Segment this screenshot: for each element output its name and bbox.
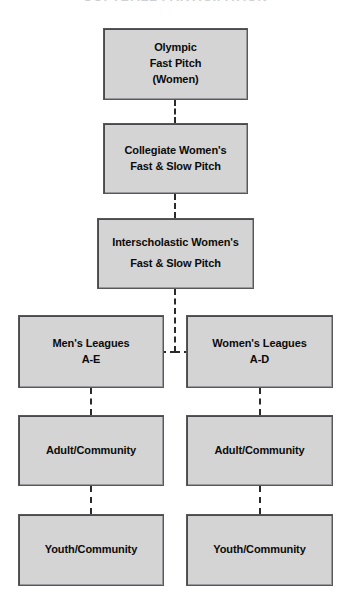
connector-collegiate-interscholastic xyxy=(174,194,176,218)
node-olympic-line-2: Fast Pitch xyxy=(150,56,202,72)
node-mens-adult-community[interactable]: Adult/Community xyxy=(18,415,164,486)
node-womens-youth-community-label: Youth/Community xyxy=(213,542,305,558)
node-collegiate-line-2: Fast & Slow Pitch xyxy=(130,159,221,175)
node-womens-adult-community-label: Adult/Community xyxy=(214,443,304,459)
flowchart-canvas: SOFTBALL PARTICIPATION Olympic Fast Pitc… xyxy=(0,0,351,613)
connector-interscholastic-split xyxy=(174,289,176,352)
connector-mens-leagues-adult xyxy=(90,388,92,415)
node-interscholastic-line-2: Fast & Slow Pitch xyxy=(130,256,221,272)
node-mens-youth-community[interactable]: Youth/Community xyxy=(18,514,164,586)
node-mens-youth-community-label: Youth/Community xyxy=(45,542,137,558)
clipped-heading: SOFTBALL PARTICIPATION xyxy=(0,0,351,4)
node-womens-leagues-line-2: A-D xyxy=(250,352,269,368)
node-womens-youth-community[interactable]: Youth/Community xyxy=(186,514,333,586)
node-collegiate-line-1: Collegiate Women's xyxy=(124,143,226,159)
node-womens-leagues-line-1: Women's Leagues xyxy=(212,336,306,352)
node-mens-leagues-line-2: A-E xyxy=(82,352,101,368)
connector-mens-adult-youth xyxy=(90,486,92,514)
node-womens-leagues[interactable]: Women's Leagues A-D xyxy=(186,315,333,388)
connector-olympic-collegiate xyxy=(174,100,176,123)
connector-womens-leagues-adult xyxy=(259,388,261,415)
node-olympic-line-3: (Women) xyxy=(152,72,198,88)
node-womens-adult-community[interactable]: Adult/Community xyxy=(186,415,333,486)
node-mens-adult-community-label: Adult/Community xyxy=(46,443,136,459)
node-interscholastic-line-1: Interscholastic Women's xyxy=(112,235,239,251)
node-mens-leagues[interactable]: Men's Leagues A-E xyxy=(18,315,164,388)
node-collegiate[interactable]: Collegiate Women's Fast & Slow Pitch xyxy=(103,123,248,194)
node-olympic-line-1: Olympic xyxy=(154,40,197,56)
connector-womens-adult-youth xyxy=(259,486,261,514)
node-interscholastic[interactable]: Interscholastic Women's Fast & Slow Pitc… xyxy=(97,218,254,289)
node-mens-leagues-line-1: Men's Leagues xyxy=(52,336,129,352)
node-olympic[interactable]: Olympic Fast Pitch (Women) xyxy=(103,28,248,100)
